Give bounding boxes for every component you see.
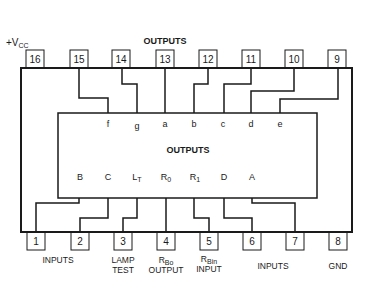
signal-f: f — [107, 119, 110, 129]
signal-a: a — [162, 119, 167, 129]
wire-pin6-D — [224, 198, 252, 232]
pin-11-number: 11 — [246, 54, 257, 65]
wire-pin10-d — [251, 68, 294, 113]
signal-LT: LT — [132, 172, 142, 183]
pin-14-number: 14 — [115, 54, 127, 65]
wire-pin11-c — [224, 68, 251, 113]
pin-13-number: 13 — [159, 54, 171, 65]
rbi-caption-2: INPUT — [196, 264, 222, 274]
pin-16-number: 16 — [29, 54, 41, 65]
pin-5-number: 5 — [206, 236, 212, 247]
wire-pin5-R1 — [194, 198, 209, 232]
ic-pinout-diagram: OUTPUTS +VCC 16 15 14 13 12 11 10 9 f g … — [0, 0, 367, 288]
signal-b: b — [191, 119, 196, 129]
pin-9-number: 9 — [334, 54, 340, 65]
outputs-title-inner: OUTPUTS — [166, 145, 209, 155]
pin-7-number: 7 — [292, 236, 298, 247]
signal-c: c — [221, 119, 226, 129]
wire-pin1-B — [36, 198, 79, 232]
wire-pin12-b — [194, 68, 208, 113]
outputs-title-top: OUTPUTS — [143, 36, 186, 46]
lamp-test-caption-2: TEST — [112, 265, 134, 275]
signal-R0: R0 — [161, 172, 172, 183]
signal-R1: R1 — [190, 172, 201, 183]
pin-3-number: 3 — [120, 236, 126, 247]
wire-pin7-A — [252, 198, 295, 232]
pin-10-number: 10 — [288, 54, 300, 65]
signal-g: g — [134, 121, 139, 131]
signal-C: C — [105, 172, 112, 182]
signal-d: d — [248, 119, 253, 129]
signal-e: e — [277, 119, 282, 129]
vcc-label: +VCC — [6, 37, 29, 49]
wire-pin3-LT — [123, 198, 137, 232]
lamp-test-caption-1: LAMP — [111, 255, 134, 265]
inputs-right-caption: INPUTS — [257, 261, 289, 271]
pin-6-number: 6 — [249, 236, 255, 247]
signal-B: B — [77, 172, 83, 182]
wire-pin15-f — [79, 68, 108, 113]
wire-pin2-C — [80, 198, 108, 232]
signal-D: D — [221, 172, 228, 182]
pin-8-number: 8 — [335, 236, 341, 247]
inputs-left-caption: INPUTS — [42, 255, 74, 265]
rbo-caption-2: OUTPUT — [149, 265, 184, 275]
pin-2-number: 2 — [77, 236, 83, 247]
signal-A: A — [249, 172, 255, 182]
wire-pin14-g — [122, 68, 137, 113]
pin-4-number: 4 — [163, 236, 169, 247]
gnd-caption: GND — [329, 261, 348, 271]
pin-15-number: 15 — [73, 54, 85, 65]
pin-1-number: 1 — [33, 236, 39, 247]
pin-12-number: 12 — [202, 54, 214, 65]
